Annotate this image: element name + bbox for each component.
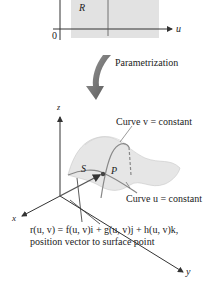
x-axis-label: x bbox=[12, 214, 16, 223]
surface-label: S bbox=[81, 164, 86, 174]
z-axis-label: z bbox=[57, 104, 60, 112]
region-label: R bbox=[79, 3, 85, 13]
point-p bbox=[101, 172, 105, 176]
surface-s bbox=[68, 126, 180, 198]
point-label: P bbox=[111, 166, 117, 176]
equation-line: r(u, v) = f(u, v)i + g(u, v)j + h(u, v)k… bbox=[30, 224, 178, 236]
parametrization-label: Parametrization bbox=[115, 58, 178, 68]
domain-plane bbox=[53, 0, 172, 40]
equation-description: position vector to surface point bbox=[30, 236, 154, 248]
leader-v bbox=[120, 126, 132, 142]
u-axis-label: u bbox=[176, 24, 181, 34]
y-axis-label: y bbox=[186, 267, 190, 277]
x-axis bbox=[22, 196, 60, 216]
leader-eq bbox=[70, 200, 100, 224]
curve-u-label: Curve u = constant bbox=[126, 194, 202, 204]
origin-label: 0 bbox=[52, 31, 57, 41]
curve-v-label: Curve v = constant bbox=[116, 117, 192, 127]
parametrization-arrow-icon bbox=[86, 55, 111, 100]
